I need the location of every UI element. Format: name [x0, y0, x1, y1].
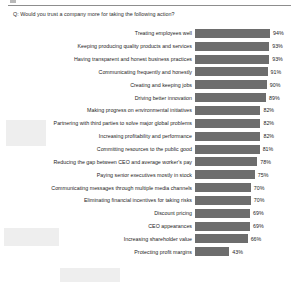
bar-track: 78%	[195, 155, 299, 168]
bar-track: 93%	[195, 40, 299, 53]
bar-row: Committing resources to the public good8…	[0, 143, 299, 156]
bar-category-label: Communicating messages through multiple …	[0, 185, 195, 191]
bar-chart-plot: Treating employees well94%Keeping produc…	[0, 27, 299, 258]
bar-row: Communicating frequently and honestly91%	[0, 66, 299, 79]
bar-row: Partnering with third parties to solve m…	[0, 117, 299, 130]
bar-value-label: 43%	[229, 249, 243, 255]
bar-row: Reducing the gap between CEO and average…	[0, 155, 299, 168]
bar-row: Treating employees well94%	[0, 27, 299, 40]
bar-value-label: 82%	[260, 107, 274, 113]
bar-category-label: Increasing shareholder value	[0, 236, 195, 242]
bar-category-label: Driving better innovation	[0, 95, 195, 101]
bar-value-label: 69%	[250, 223, 264, 229]
bar-value-label: 69%	[250, 210, 264, 216]
bar-value-label: 94%	[270, 30, 284, 36]
bar	[195, 196, 251, 205]
bar-value-label: 81%	[260, 146, 274, 152]
bar	[195, 209, 250, 218]
bar-track: 94%	[195, 27, 299, 40]
bar-value-label: 66%	[248, 236, 262, 242]
chart-title: Q: Would you trust a company more for ta…	[13, 11, 175, 17]
bar-track: 43%	[195, 245, 299, 258]
bar	[195, 93, 266, 102]
bar-row: Driving better innovation89%	[0, 91, 299, 104]
corner-artifact	[10, 0, 16, 3]
bar	[195, 42, 269, 51]
bar	[195, 106, 260, 115]
bar	[195, 29, 270, 38]
bar	[195, 55, 269, 64]
bar-value-label: 89%	[266, 95, 280, 101]
bar-category-label: Having transparent and honest business p…	[0, 56, 195, 62]
bar-row: Having transparent and honest business p…	[0, 53, 299, 66]
bar-category-label: Protecting profit margins	[0, 249, 195, 255]
bar-track: 81%	[195, 143, 299, 156]
bar-category-label: Creating and keeping jobs	[0, 82, 195, 88]
bar-track: 69%	[195, 220, 299, 233]
bar-category-label: Making progress on environmental initiat…	[0, 107, 195, 113]
bar-value-label: 75%	[255, 172, 269, 178]
bar	[195, 222, 250, 231]
bar-row: CEO appearances69%	[0, 220, 299, 233]
bar	[195, 170, 255, 179]
bar-value-label: 82%	[260, 120, 274, 126]
bar-category-label: Paying senior executives mostly in stock	[0, 172, 195, 178]
bar-row: Discount pricing69%	[0, 207, 299, 220]
bar-row: Keeping producing quality products and s…	[0, 40, 299, 53]
bar-row: Protecting profit margins43%	[0, 245, 299, 258]
bar-value-label: 70%	[251, 197, 265, 203]
bar-track: 93%	[195, 53, 299, 66]
bar-row: Creating and keeping jobs90%	[0, 78, 299, 91]
bar-track: 69%	[195, 207, 299, 220]
bar-value-label: 93%	[269, 43, 283, 49]
bar	[195, 67, 268, 76]
bar-value-label: 90%	[267, 82, 281, 88]
bar-track: 89%	[195, 91, 299, 104]
bar-row: Increasing shareholder value66%	[0, 233, 299, 246]
bar-category-label: Communicating frequently and honestly	[0, 69, 195, 75]
bar	[195, 80, 267, 89]
bar-row: Making progress on environmental initiat…	[0, 104, 299, 117]
bar	[195, 247, 229, 256]
bar-row: Eliminating financial incentives for tak…	[0, 194, 299, 207]
header-divider	[8, 5, 291, 6]
bar-row: Communicating messages through multiple …	[0, 181, 299, 194]
bar-category-label: Committing resources to the public good	[0, 146, 195, 152]
bar-category-label: Keeping producing quality products and s…	[0, 43, 195, 49]
bar-category-label: Eliminating financial incentives for tak…	[0, 197, 195, 203]
bar-category-label: Discount pricing	[0, 210, 195, 216]
bar	[195, 132, 260, 141]
bar	[195, 157, 257, 166]
bar-track: 75%	[195, 168, 299, 181]
bar	[195, 234, 248, 243]
bar-value-label: 93%	[269, 56, 283, 62]
chart-figure: Q: Would you trust a company more for ta…	[0, 0, 299, 292]
bar-value-label: 78%	[257, 159, 271, 165]
bar-row: Increasing profitability and performance…	[0, 130, 299, 143]
bar	[195, 183, 251, 192]
scan-artifact	[60, 268, 120, 282]
bar-category-label: Reducing the gap between CEO and average…	[0, 159, 195, 165]
bar	[195, 119, 260, 128]
bar-category-label: Treating employees well	[0, 30, 195, 36]
bar-value-label: 70%	[251, 185, 265, 191]
bar-track: 90%	[195, 78, 299, 91]
bar-value-label: 91%	[268, 69, 282, 75]
bar-category-label: Increasing profitability and performance	[0, 133, 195, 139]
bar-track: 70%	[195, 194, 299, 207]
bar-track: 66%	[195, 233, 299, 246]
bar-track: 82%	[195, 104, 299, 117]
bar-track: 70%	[195, 181, 299, 194]
bar-row: Paying senior executives mostly in stock…	[0, 168, 299, 181]
bar-category-label: CEO appearances	[0, 223, 195, 229]
bar-track: 91%	[195, 66, 299, 79]
bar	[195, 145, 260, 154]
bar-value-label: 82%	[260, 133, 274, 139]
bar-track: 82%	[195, 130, 299, 143]
bar-category-label: Partnering with third parties to solve m…	[0, 120, 195, 126]
bar-track: 82%	[195, 117, 299, 130]
